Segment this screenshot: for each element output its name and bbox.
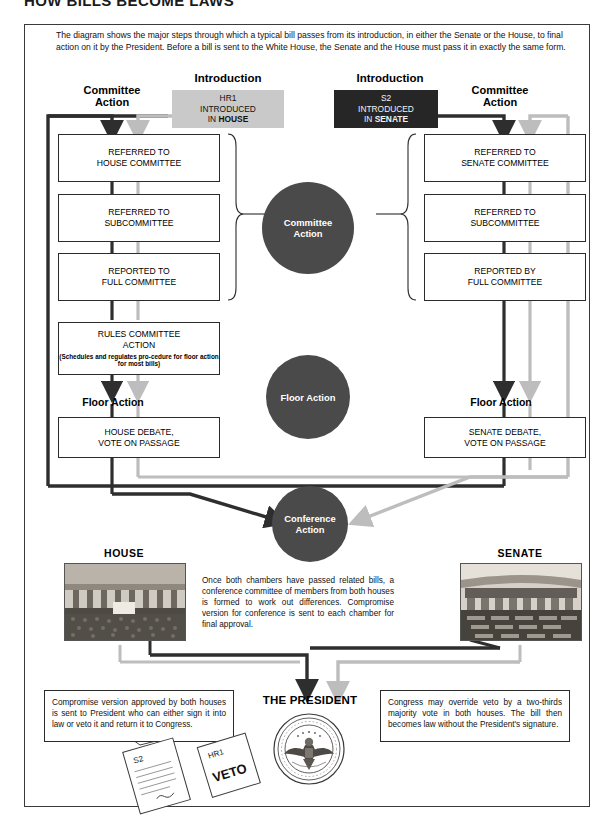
circle-floor-action-label: Floor Action [281,392,336,403]
step-box-senate-1[interactable]: REFERRED TO SENATE COMMITTEE [424,134,586,182]
circle-floor-action[interactable]: Floor Action [266,355,350,439]
intro-house-chamber: HOUSE [218,114,248,124]
step-box-senate-3[interactable]: REPORTED BY FULL COMMITTEE [424,253,586,301]
veto-paper-hr1: HR1 VETO [188,726,280,818]
label-committee-action-left: CommitteeAction [52,84,172,108]
label-floor-action-right: Floor Action [448,396,554,408]
intro-house-bill: HR1 [220,93,237,103]
conference-note: Once both chambers have passed related b… [202,575,394,630]
debate-senate-line1: SENATE DEBATE, [469,427,541,438]
step-senate-2-line1: REFERRED TO [474,207,535,218]
step-house-2-line1: REFERRED TO [108,207,169,218]
step-senate-1-line1: REFERRED TO [474,147,535,158]
step-house-1-line2: HOUSE COMMITTEE [97,158,182,169]
debate-box-senate[interactable]: SENATE DEBATE, VOTE ON PASSAGE [424,417,586,458]
step-box-house-4[interactable]: RULES COMMITTEE ACTION (Schedules and re… [58,322,220,375]
label-house-photo: HOUSE [64,547,184,559]
page-title: HOW BILLS BECOME LAWS [24,0,234,9]
label-committee-action-right: CommitteeAction [440,84,560,108]
presidential-seal-icon [272,712,346,786]
senate-chamber-photo [460,563,582,641]
step-senate-3-line2: FULL COMMITTEE [468,277,543,288]
label-introduction-right: Introduction [330,72,450,84]
intro-senate-line2: INTRODUCED [358,104,414,114]
step-house-3-line2: FULL COMMITTEE [102,277,177,288]
intro-house-line2: INTRODUCED [200,104,256,114]
label-introduction-left: Introduction [168,72,288,84]
intro-house-line3-prefix: IN [208,114,219,124]
step-senate-2-line2: SUBCOMMITTEE [470,218,539,229]
label-floor-action-left: Floor Action [60,396,166,408]
circle-committee-action[interactable]: CommitteeAction [262,182,354,274]
step-house-1-line1: REFERRED TO [108,147,169,158]
intro-senate-chamber: SENATE [375,114,408,124]
intro-paragraph: The diagram shows the major steps throug… [56,30,576,53]
label-the-president: THE PRESIDENT [250,694,370,706]
debate-house-line2: VOTE ON PASSAGE [98,438,180,449]
debate-box-house[interactable]: HOUSE DEBATE, VOTE ON PASSAGE [58,417,220,458]
circle-conference-action[interactable]: ConferenceAction [272,486,348,562]
intro-senate-line3-prefix: IN [364,114,375,124]
step-senate-3-line1: REPORTED BY [474,266,535,277]
debate-house-line1: HOUSE DEBATE, [104,427,173,438]
debate-senate-line2: VOTE ON PASSAGE [464,438,546,449]
bottom-text-box-right: Congress may override veto by a two-thir… [380,690,570,742]
step-box-senate-2[interactable]: REFERRED TO SUBCOMMITTEE [424,194,586,242]
step-senate-1-line2: SENATE COMMITTEE [461,158,549,169]
intro-box-house[interactable]: HR1 INTRODUCED IN HOUSE [172,90,284,128]
step-box-house-2[interactable]: REFERRED TO SUBCOMMITTEE [58,194,220,242]
step-house-4-note: (Schedules and regulates pro-cedure for … [59,353,219,368]
step-house-4-line1: RULES COMMITTEE [98,329,181,340]
intro-box-senate[interactable]: S2 INTRODUCED IN SENATE [334,90,438,128]
intro-senate-bill: S2 [381,93,391,103]
diagram-stage: HOW BILLS BECOME LAWS The diagram shows … [0,0,616,835]
step-house-4-line2: ACTION [123,340,155,351]
step-box-house-1[interactable]: REFERRED TO HOUSE COMMITTEE [58,134,220,182]
label-senate-photo: SENATE [460,547,580,559]
step-house-2-line2: SUBCOMMITTEE [104,218,173,229]
step-box-house-3[interactable]: REPORTED TO FULL COMMITTEE [58,253,220,301]
house-chamber-photo [64,563,186,641]
step-house-3-line1: REPORTED TO [108,266,170,277]
